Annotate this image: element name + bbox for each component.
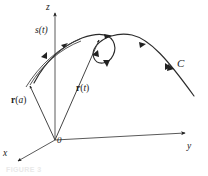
axis-label-z: z	[46, 3, 50, 13]
vector-label-r-of-t: r(t)	[76, 84, 89, 94]
curve-label-C: C	[177, 58, 184, 69]
origin-label: 0	[57, 136, 62, 145]
space-curve-path	[34, 34, 194, 96]
figure-caption: FIGURE 3	[6, 166, 41, 173]
axis-y	[55, 133, 185, 140]
vector-paren-close-a: )	[23, 95, 26, 105]
arc-length-label: s(t)	[35, 26, 48, 36]
vector-paren-close-t: )	[86, 83, 89, 93]
figure-container: z x y 0 s(t) r(a) r(t) C FIGURE 3	[0, 0, 208, 176]
arc-length-indicator	[26, 39, 81, 87]
axis-x	[18, 140, 55, 161]
arc-length-paren-close: )	[45, 25, 48, 35]
axis-label-x: x	[3, 149, 7, 159]
vector-label-r-of-a: r(a)	[11, 96, 26, 106]
space-curve-diagram	[0, 0, 208, 176]
axis-label-y: y	[187, 142, 191, 152]
vector-r-of-a	[30, 86, 55, 140]
